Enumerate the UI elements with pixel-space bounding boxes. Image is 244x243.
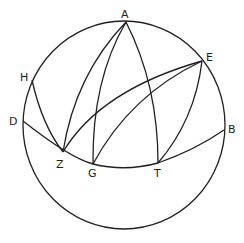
arcs-group: [23, 22, 224, 168]
diagram-canvas: AEHDBZGT: [0, 0, 244, 243]
arc-A-G: [93, 22, 126, 164]
point-label-t: T: [153, 167, 161, 180]
arc-D-Z-G-T-B: [23, 121, 224, 168]
point-label-b: B: [228, 123, 236, 136]
point-label-g: G: [88, 167, 97, 180]
arc-Z-E: [63, 61, 202, 152]
arc-A-T: [126, 22, 158, 163]
point-label-z: Z: [56, 158, 64, 171]
spherical-diagram: AEHDBZGT: [0, 0, 244, 243]
arc-H-Z: [32, 80, 63, 152]
point-label-d: D: [9, 115, 17, 128]
great-circle-outline: [23, 21, 225, 229]
point-label-h: H: [20, 71, 28, 84]
point-label-a: A: [121, 8, 129, 21]
point-label-e: E: [206, 51, 213, 64]
